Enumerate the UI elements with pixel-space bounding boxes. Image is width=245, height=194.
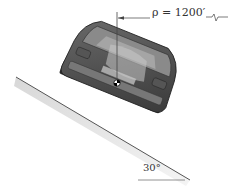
- car: [59, 14, 187, 115]
- bank-angle-label: 30°: [143, 162, 161, 173]
- banked-road-diagram: [0, 0, 245, 194]
- radius-label: ρ = 1200′: [152, 6, 205, 19]
- center-of-mass-icon: [114, 80, 120, 86]
